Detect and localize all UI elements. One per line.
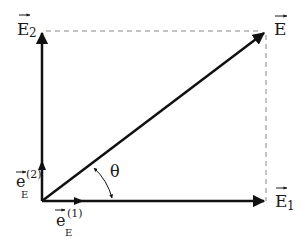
svg-text:E: E [17, 19, 29, 39]
label-unit-e2: e (2) E [16, 168, 42, 200]
svg-text:E: E [65, 227, 72, 238]
svg-text:E: E [275, 191, 287, 211]
vector-diagram: E 2 E E 1 θ e (2) E e (1) E [0, 0, 307, 243]
svg-text:E: E [274, 19, 286, 39]
unit-vector-e1-arrowhead [74, 197, 84, 205]
label-e: E [274, 16, 287, 39]
svg-text:1: 1 [287, 199, 295, 213]
label-e2: E 2 [17, 15, 37, 40]
svg-text:(1): (1) [67, 207, 83, 220]
label-theta: θ [110, 162, 120, 181]
svg-text:(2): (2) [26, 168, 42, 181]
svg-text:E: E [21, 189, 28, 200]
label-unit-e1: e (1) E [55, 207, 83, 238]
label-e1: E 1 [275, 188, 295, 213]
vector-e [42, 33, 264, 201]
svg-text:2: 2 [29, 26, 37, 40]
